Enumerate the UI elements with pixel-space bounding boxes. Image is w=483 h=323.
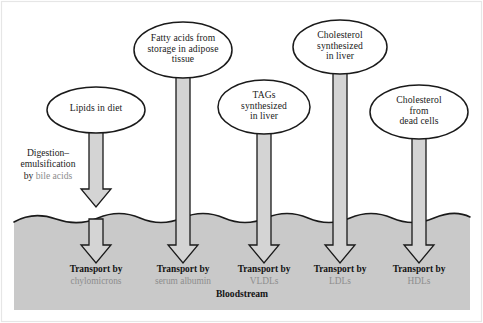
node-tags-synthesized-liver [218, 80, 310, 134]
lipid-transport-diagram: Lipids in diet Fatty acids from storage … [0, 0, 483, 323]
bloodstream-wavy-surface [14, 213, 470, 222]
bloodstream-fill [14, 213, 470, 310]
diagram-canvas [0, 0, 483, 323]
bloodstream-region [14, 213, 470, 310]
node-lipids-in-diet [47, 87, 145, 133]
node-cholesterol-dead-cells [370, 85, 468, 139]
arrow-lipids-to-digestion [81, 131, 111, 207]
node-fatty-acids-adipose [134, 22, 232, 78]
node-cholesterol-synthesized-liver [293, 20, 387, 74]
